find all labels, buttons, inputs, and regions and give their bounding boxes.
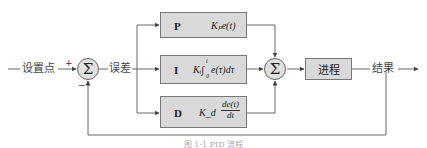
setpoint-label: 设置点 xyxy=(22,63,55,74)
d-formula-prefix: K_d xyxy=(199,107,216,118)
summing-junction-error: Σ xyxy=(77,58,99,80)
process-block: 进程 xyxy=(305,58,352,80)
sigma-icon: Σ xyxy=(83,60,94,78)
derivative-block: D K_d de(t) dt xyxy=(160,96,247,128)
i-lower-limit: 0 xyxy=(206,73,209,79)
d-fraction-denominator: dt xyxy=(227,111,234,121)
minus-sign: − xyxy=(78,80,86,90)
p-formula: Kₚe(t) xyxy=(211,20,236,31)
error-label: 误差 xyxy=(109,63,131,74)
integral-block: I Kᵢ∫ t 0 e(τ)dτ xyxy=(160,55,247,84)
p-letter: P xyxy=(174,20,181,32)
i-upper-limit: t xyxy=(206,58,208,64)
i-formula-prefix: Kᵢ∫ xyxy=(193,64,204,75)
d-letter: D xyxy=(174,107,182,119)
sigma-icon: Σ xyxy=(270,60,281,78)
d-fraction: de(t) dt xyxy=(221,100,240,121)
summing-junction-output: Σ xyxy=(264,58,286,80)
process-label: 进程 xyxy=(306,59,351,79)
proportional-block: P Kₚe(t) xyxy=(160,12,247,38)
i-formula-body: e(τ)dτ xyxy=(211,64,234,75)
output-label: 结果 xyxy=(372,63,394,74)
figure-caption: 图 1-1 PID 流程 xyxy=(0,138,427,148)
plus-sign: + xyxy=(65,58,73,68)
i-letter: I xyxy=(174,64,178,76)
pid-diagram: 设置点 + − Σ 误差 P Kₚe(t) I Kᵢ∫ t 0 e(τ)dτ D… xyxy=(0,0,427,148)
